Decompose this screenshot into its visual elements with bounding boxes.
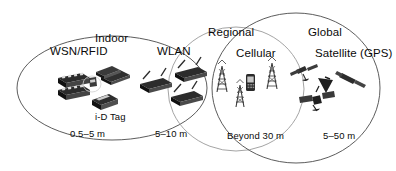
range-label-wsn-rfid: 0.5–5 m <box>70 129 105 139</box>
wireless-range-venn-diagram: Indoor Regional Global WSN/RFID WLAN Cel… <box>0 0 396 171</box>
zone-title-indoor: Indoor <box>95 33 128 45</box>
tech-title-cellular: Cellular <box>236 48 276 60</box>
satellite-icon <box>335 71 366 88</box>
sensor-node-icon <box>58 73 90 88</box>
cell-tower-icon <box>217 60 227 92</box>
rfid-tag-icon <box>83 76 101 92</box>
sublabel-id-tag: i-D Tag <box>95 112 126 122</box>
tech-title-wlan: WLAN <box>157 46 191 58</box>
range-label-cellular: Beyond 30 m <box>227 131 284 141</box>
mobile-phone-icon <box>246 74 255 91</box>
cell-tower-icon <box>267 57 277 89</box>
wifi-router-icon <box>140 68 172 93</box>
sensor-node-icon <box>58 85 90 100</box>
satellite-icon-group <box>290 64 366 111</box>
satellite-icon <box>318 77 333 93</box>
zone-title-regional: Regional <box>208 27 254 39</box>
wifi-router-icon <box>175 57 207 82</box>
id-tag-icon <box>92 94 118 110</box>
satellite-icon <box>290 64 318 81</box>
cell-tower-icon <box>236 80 244 108</box>
tech-title-satellite-gps: Satellite (GPS) <box>315 48 393 60</box>
range-label-wlan: 5–10 m <box>155 129 187 139</box>
wifi-router-icon <box>171 81 203 106</box>
wsn-rfid-icon-group <box>58 66 130 110</box>
zone-title-global: Global <box>308 27 342 39</box>
tech-title-wsn-rfid: WSN/RFID <box>50 46 108 58</box>
range-label-satellite-gps: 5–50 m <box>323 131 355 141</box>
cellular-icon-group <box>217 57 277 107</box>
